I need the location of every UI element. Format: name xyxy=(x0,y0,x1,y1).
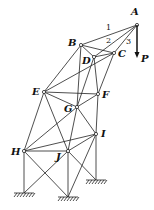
ground-support-icon xyxy=(86,180,107,184)
member-C-F xyxy=(98,53,114,94)
joint-label-H: H xyxy=(10,146,21,157)
ground-support-icon xyxy=(14,193,35,197)
member-F-I xyxy=(96,94,98,134)
joint-label-E: E xyxy=(31,86,40,97)
joint-E xyxy=(42,90,45,93)
joint-label-C: C xyxy=(118,48,126,59)
member-H-J0 xyxy=(24,151,68,197)
member-B-E xyxy=(44,45,81,92)
joint-H xyxy=(22,149,25,152)
joint-J xyxy=(66,149,69,152)
joint-label-F: F xyxy=(101,89,110,100)
load-arrow-P: P xyxy=(135,25,150,64)
joint-label-B: B xyxy=(67,37,76,48)
member-J-H0 xyxy=(24,151,68,193)
joint-label-G: G xyxy=(64,103,73,114)
member-number-label: 1 xyxy=(106,23,111,32)
member-G-I xyxy=(77,107,96,134)
joint-label-A: A xyxy=(130,6,139,17)
load-label: P xyxy=(140,53,149,64)
joint-labels: ABCDEFGHIJ123 xyxy=(10,6,139,162)
joint-G xyxy=(75,105,78,108)
ground-support-icon xyxy=(58,197,79,201)
joint-label-D: D xyxy=(81,55,91,66)
fixed-supports xyxy=(14,180,107,201)
joint-F xyxy=(96,92,99,95)
joint-D xyxy=(92,55,95,58)
arrow-down-icon xyxy=(135,52,140,58)
joint-label-I: I xyxy=(100,128,106,139)
truss-diagram: P ABCDEFGHIJ123 xyxy=(0,0,154,210)
member-E-C xyxy=(44,53,114,92)
member-E-H xyxy=(24,92,44,151)
joint-B xyxy=(79,43,82,46)
member-number-label: 2 xyxy=(106,36,111,45)
member-G-F xyxy=(77,94,98,107)
member-number-label: 3 xyxy=(126,37,131,46)
joint-C xyxy=(112,51,115,54)
joint-I xyxy=(94,132,97,135)
member-E-F xyxy=(44,92,98,94)
member-I-J0 xyxy=(68,134,96,197)
truss-joints xyxy=(22,23,138,152)
joint-label-J: J xyxy=(54,151,62,162)
